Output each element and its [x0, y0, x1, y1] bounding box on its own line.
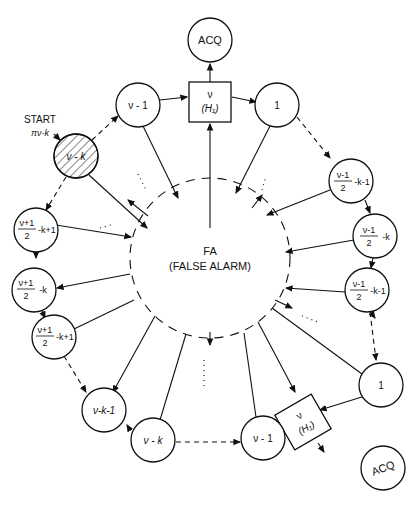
state-diagram: FA (FALSE ALARM) ACQ ν (H₁) ν - 1 1 STAR…: [0, 0, 413, 505]
bottom-right-one-label: 1: [378, 380, 384, 391]
r3-num: ν-1: [353, 279, 366, 289]
r3-tail: -k-1: [370, 286, 386, 296]
l1-den: 2: [24, 231, 29, 241]
start-prob: πν-k: [31, 128, 50, 138]
r1-tail: -k-1: [354, 177, 370, 187]
l2-tail: -k: [39, 285, 47, 295]
l3-num: ν+1: [38, 325, 53, 335]
node-l2: [12, 268, 56, 312]
r2-den: 2: [366, 238, 371, 248]
l3-tail: -k+1: [56, 332, 74, 342]
start-label: START: [24, 114, 56, 125]
fa-subtitle: (FALSE ALARM): [169, 260, 251, 272]
bottom-nuk1-label: ν-k-1: [93, 405, 115, 416]
h1-top-box: [189, 82, 231, 122]
l2-den: 2: [23, 291, 28, 301]
bottom-nu1-label: ν - 1: [253, 433, 273, 444]
box-top-num: ν: [208, 89, 213, 100]
l1-tail: -k+1: [38, 225, 56, 235]
top-right-label: 1: [274, 100, 280, 111]
acq-top-label: ACQ: [198, 34, 222, 46]
r1-den: 2: [340, 183, 345, 193]
r3-den: 2: [356, 292, 361, 302]
l2-num: ν+1: [19, 278, 34, 288]
r2-tail: -k: [382, 232, 390, 242]
start-node-label: ν - k: [67, 151, 87, 162]
fa-title: FA: [203, 245, 217, 257]
top-left-label: ν - 1: [128, 100, 148, 111]
l1-num: ν+1: [20, 218, 35, 228]
box-top-sub: (H₁): [201, 103, 218, 114]
bottom-nuk-label: ν - k: [144, 435, 164, 446]
l3-den: 2: [42, 338, 47, 348]
r1-num: ν-1: [337, 170, 350, 180]
r2-num: ν-1: [363, 225, 376, 235]
